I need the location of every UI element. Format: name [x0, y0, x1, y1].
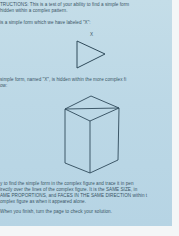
simple-form-triangle: [77, 41, 105, 68]
middle-text-line-1: simple form, named "X", is hidden within…: [0, 77, 126, 83]
task-text-line-1: y to find the simple form in the complex…: [0, 181, 134, 187]
task-text-line-4: omplex figure as when it appeared alone.: [0, 199, 86, 205]
task-text-line-2: irectly over the lines of the complex fi…: [0, 187, 137, 193]
task-text-line-3: AME PROPORTIONS, and FACES IN THE SAME D…: [0, 193, 147, 199]
middle-text-line-2: ow:: [0, 83, 7, 89]
footer-text: When you finish, turn the page to check …: [0, 209, 112, 215]
complex-form-box: [65, 96, 119, 173]
test-page: TRUCTIONS: This is a test of your abilit…: [0, 0, 172, 226]
